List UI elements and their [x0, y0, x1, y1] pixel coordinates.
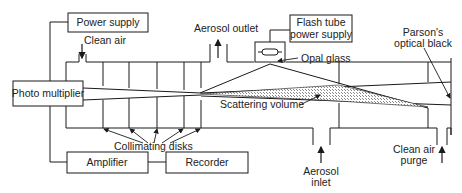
amplifier-label: Amplifier	[87, 156, 128, 168]
power-supply-label: Power supply	[76, 16, 140, 28]
flash-tube-label-line1: Flash tube	[296, 16, 345, 28]
collimating-disks-label: Collimating disks	[114, 140, 193, 152]
parsons-label-line2: optical black	[394, 37, 453, 49]
aerosol-outlet-label: Aerosol outlet	[194, 22, 258, 34]
clean-air-label: Clean air	[84, 34, 127, 46]
photo-multiplier-label: Photo multiplier	[12, 87, 85, 99]
clean-air-purge-label-line2: purge	[401, 154, 428, 166]
nephelometer-diagram: Power supply Photo multiplier Amplifier …	[0, 0, 462, 193]
scattering-volume-label: Scattering volume	[220, 98, 304, 110]
aerosol-inlet-label-line2: inlet	[311, 176, 330, 188]
flash-tube-label-line2: power supply	[290, 28, 353, 40]
recorder-label: Recorder	[185, 156, 229, 168]
diagram-svg: Power supply Photo multiplier Amplifier …	[0, 0, 462, 193]
opal-glass-label: Opal glass	[301, 52, 351, 64]
